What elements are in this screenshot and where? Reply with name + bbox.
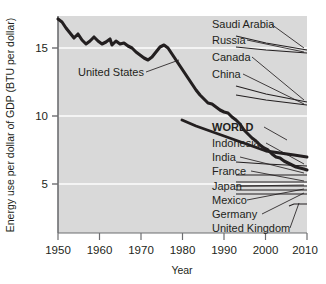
series-label-germany: Germany	[212, 208, 258, 220]
xtick-label-1970: 1970	[128, 244, 154, 256]
xtick-label-1990: 1990	[211, 244, 237, 256]
series-label-canada: Canada	[212, 51, 251, 63]
series-label-indonesia: Indonesia	[212, 137, 261, 149]
series-label-world: WORLD	[212, 121, 254, 133]
series-label-france: France	[212, 165, 246, 177]
xtick-label-2010: 2010	[292, 244, 318, 256]
ytick-label-15: 15	[35, 42, 48, 54]
xtick-label-1950: 1950	[45, 244, 71, 256]
xtick-label-2000: 2000	[253, 244, 279, 256]
energy-intensity-chart-figure: 15 10 5 1950 1960 1970 1980 1990 2000 20…	[0, 0, 326, 284]
series-label-russia: Russia	[212, 34, 247, 46]
chart-svg: 15 10 5 1950 1960 1970 1980 1990 2000 20…	[0, 0, 326, 284]
xtick-label-1980: 1980	[170, 244, 196, 256]
xtick-label-1960: 1960	[87, 244, 113, 256]
ytick-label-5: 5	[42, 178, 48, 190]
series-label-japan: Japan	[212, 180, 242, 192]
x-axis-title: Year	[171, 264, 193, 276]
series-label-united-kingdom: United Kingdom	[212, 222, 290, 234]
series-label-india: India	[212, 151, 237, 163]
series-label-united-states: United States	[78, 66, 145, 78]
series-label-mexico: Mexico	[212, 194, 247, 206]
x-axis-ticks	[58, 233, 307, 240]
y-axis-title: Energy use per dollar of GDP (BTU per do…	[4, 18, 16, 233]
series-label-saudi-arabia: Saudi Arabia	[212, 18, 275, 30]
ytick-label-10: 10	[35, 110, 48, 122]
series-label-china: China	[212, 68, 242, 80]
y-axis-ticks	[52, 48, 58, 184]
